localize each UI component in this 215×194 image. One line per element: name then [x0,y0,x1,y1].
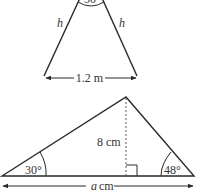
base-variable: a [91,179,97,193]
scalene-triangle: 30° 48° 8 cm acm [2,97,194,193]
right-angle-marker [126,165,137,176]
left-angle-label: 30° [25,163,42,177]
base-unit: cm [99,179,114,193]
right-angle-label: 48° [164,163,181,177]
diagram-canvas: 30° h h 1.2 m 30° 48° 8 cm acm [0,0,215,194]
right-side-label: h [119,16,125,30]
apex-angle-label: 30° [84,0,101,6]
base-label: acm [91,179,114,193]
right-side-h [102,0,137,76]
base-label: 1.2 m [76,71,104,85]
height-label: 8 cm [97,135,121,149]
isosceles-triangle: 30° h h 1.2 m [44,0,137,85]
left-side-h [44,0,80,76]
left-side-label: h [57,16,63,30]
